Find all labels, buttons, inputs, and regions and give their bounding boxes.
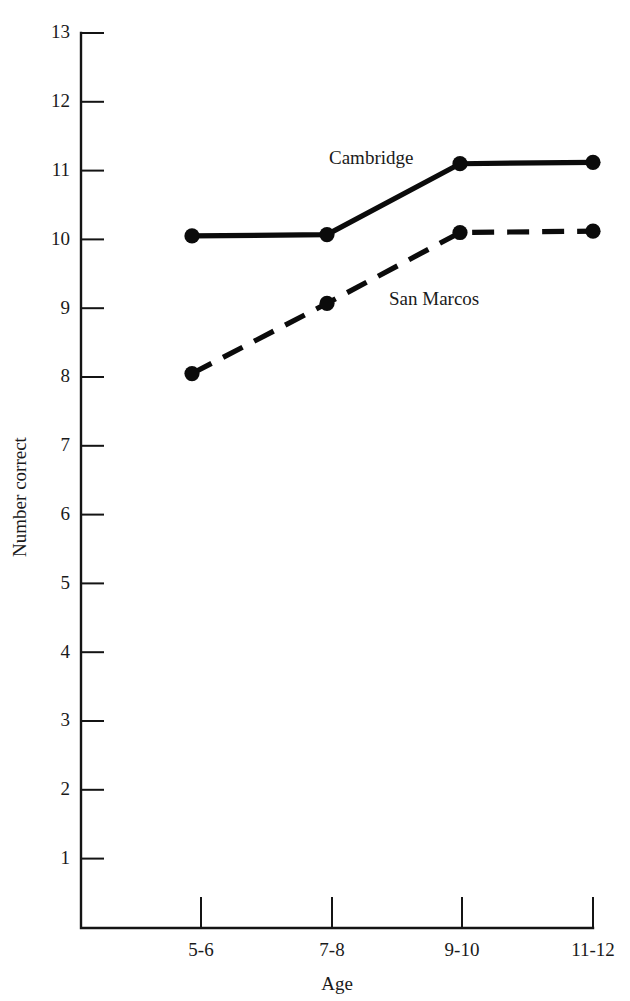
- y-axis-ticks: 12345678910111213: [51, 21, 104, 868]
- y-tick-label: 7: [61, 434, 71, 455]
- data-point-marker: [319, 227, 334, 242]
- x-tick-label: 11-12: [571, 939, 615, 960]
- line-chart: 12345678910111213 5-67-89-1011-12 Cambri…: [0, 0, 630, 1001]
- data-point-marker: [585, 224, 600, 239]
- y-tick-label: 6: [61, 503, 71, 524]
- y-tick-label: 9: [61, 297, 71, 318]
- x-tick-label: 5-6: [188, 939, 213, 960]
- data-point-marker: [184, 366, 199, 381]
- y-tick-label: 4: [61, 641, 71, 662]
- y-tick-label: 1: [61, 847, 71, 868]
- y-tick-label: 11: [52, 159, 70, 180]
- data-point-marker: [319, 296, 334, 311]
- data-series-group: [184, 155, 600, 381]
- y-tick-label: 10: [51, 228, 70, 249]
- y-axis-title: Number correct: [9, 436, 30, 556]
- series-line-cambridge: [192, 162, 593, 236]
- y-tick-label: 12: [51, 90, 70, 111]
- data-point-marker: [585, 155, 600, 170]
- x-tick-label: 9-10: [445, 939, 480, 960]
- series-label-cambridge: Cambridge: [329, 147, 413, 168]
- data-point-marker: [184, 228, 199, 243]
- x-axis-title: Age: [321, 973, 353, 994]
- data-point-marker: [452, 156, 467, 171]
- y-tick-label: 5: [61, 572, 71, 593]
- series-label-san-marcos: San Marcos: [389, 288, 479, 309]
- y-tick-label: 2: [61, 778, 71, 799]
- chart-canvas: 12345678910111213 5-67-89-1011-12 Cambri…: [0, 0, 630, 1001]
- y-tick-label: 3: [61, 709, 71, 730]
- y-tick-label: 13: [51, 21, 70, 42]
- y-tick-label: 8: [61, 365, 71, 386]
- data-point-marker: [452, 225, 467, 240]
- x-tick-label: 7-8: [319, 939, 344, 960]
